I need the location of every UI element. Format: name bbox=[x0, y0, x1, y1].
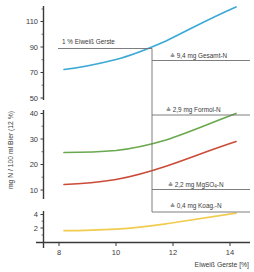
annotation-bracket-gesamt-n: ≙ 9,4 mg Gesamt-N bbox=[152, 52, 250, 61]
curve-mgso4-n bbox=[64, 142, 236, 185]
x-tick-8: 8 bbox=[57, 248, 61, 257]
y-tick-10: 10 bbox=[30, 186, 38, 195]
annotation-label-reference: 1 % Eiweiß Gerste bbox=[62, 38, 115, 45]
series-koag-n bbox=[64, 213, 236, 231]
series-formol-n bbox=[64, 114, 236, 153]
annotation-label-koag-n: ≙ 0,4 mg Koag.-N bbox=[170, 202, 222, 210]
x-tick-10: 10 bbox=[112, 248, 120, 257]
curve-formol-n bbox=[64, 114, 236, 153]
annotation-bracket-reference: 1 % Eiweiß Gerste bbox=[58, 38, 152, 212]
annotation-bracket-koag-n: ≙ 0,4 mg Koag.-N bbox=[152, 202, 250, 212]
y-tick-70: 70 bbox=[30, 68, 38, 77]
x-axis-title-text: Eiweiß Gerste [%] bbox=[195, 261, 249, 269]
x-tick-14: 14 bbox=[226, 248, 234, 257]
annotation-label-formol-n: ≙ 2,9 mg Formol-N bbox=[166, 106, 221, 114]
y-axis-title: mg N / 100 ml Bier (12 %) bbox=[7, 111, 15, 189]
y-tick-4: 4 bbox=[34, 210, 38, 219]
y-tick-50: 50 bbox=[30, 94, 38, 103]
annotation-bracket-mgso4-n: ≙ 2,2 mg MgSO4-N bbox=[152, 181, 250, 190]
y-tick-2: 2 bbox=[34, 224, 38, 233]
y-tick-110: 110 bbox=[26, 17, 38, 26]
y-axis-segment-middle: 40 30 20 10 bbox=[30, 109, 44, 199]
curve-koag-n bbox=[64, 213, 236, 231]
y-tick-90: 90 bbox=[30, 43, 38, 52]
y-axis-segment-upper: 110 90 70 50 bbox=[26, 6, 43, 103]
annotation-label-mgso4-n-main: ≙ 2,2 mg MgSO bbox=[168, 181, 214, 189]
annotation-label-gesamt-n: ≙ 9,4 mg Gesamt-N bbox=[170, 52, 228, 60]
y-tick-20: 20 bbox=[30, 160, 38, 169]
x-axis: 8 10 12 14 Eiweiß Gerste [%] bbox=[36, 243, 250, 270]
y-axis-title-text: mg N / 100 ml Bier (12 %) bbox=[7, 111, 15, 189]
nitrogen-vs-barley-protein-chart: mg N / 100 ml Bier (12 %) 110 90 70 50 4… bbox=[0, 0, 254, 272]
y-tick-40: 40 bbox=[30, 109, 38, 118]
series-mgso4-n bbox=[64, 142, 236, 185]
y-tick-30: 30 bbox=[30, 135, 38, 144]
chart-container: mg N / 100 ml Bier (12 %) 110 90 70 50 4… bbox=[0, 0, 254, 272]
annotation-label-mgso4-n: ≙ 2,2 mg MgSO4-N bbox=[168, 181, 224, 190]
annotation-label-mgso4-n-suffix: -N bbox=[217, 181, 224, 188]
x-tick-12: 12 bbox=[169, 248, 177, 257]
